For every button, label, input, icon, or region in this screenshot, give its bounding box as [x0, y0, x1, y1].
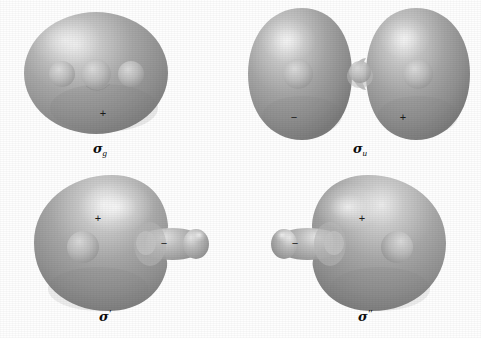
sign-plus: + [397, 112, 409, 123]
sigma-symbol: σ [99, 309, 109, 324]
nucleus-sphere [118, 61, 144, 87]
sigma-prime-mark: ′ [109, 307, 111, 319]
highlight [274, 228, 290, 242]
nucleus-sphere [403, 59, 433, 89]
highlight [191, 228, 207, 242]
panel-sigma-prime: + − σ′ [0, 169, 240, 338]
shade [330, 267, 430, 311]
panel-sigma-u: − + σu [240, 0, 481, 169]
orbital-figure: + σg [0, 0, 481, 338]
sigma-symbol: σ [353, 141, 363, 156]
highlight [29, 14, 101, 66]
sign-minus: − [289, 238, 301, 249]
sign-plus: + [92, 213, 104, 224]
sigma-subscript: g [103, 148, 108, 158]
highlight [379, 17, 431, 59]
nucleus-sphere [381, 231, 413, 263]
label-sigma-g: σg [70, 141, 130, 158]
sigma-subscript: u [363, 148, 368, 158]
sign-minus: − [288, 112, 300, 123]
sigma-double-prime-mark: ″ [368, 307, 373, 319]
nucleus-sphere [67, 231, 99, 263]
label-sigma-u: σu [330, 141, 390, 158]
sign-plus: + [97, 108, 109, 119]
highlight [314, 183, 382, 231]
shade [378, 96, 458, 136]
sigma-symbol: σ [358, 309, 368, 324]
notch-core [136, 231, 156, 255]
shade [48, 267, 148, 311]
sigma-symbol: σ [93, 141, 103, 156]
nucleus-sphere [283, 59, 313, 89]
nucleus-sphere [49, 61, 75, 87]
panel-sigma-double-prime: + − σ″ [240, 169, 481, 338]
sign-plus: + [356, 213, 368, 224]
sign-minus: − [158, 238, 170, 249]
label-sigma-double-prime: σ″ [332, 307, 398, 325]
nucleus-sphere [81, 59, 111, 89]
nucleus-sphere [349, 61, 371, 83]
highlight [78, 181, 154, 233]
panel-sigma-g: + σg [0, 0, 240, 169]
shade [262, 96, 342, 136]
label-sigma-prime: σ′ [75, 307, 135, 325]
highlight [260, 18, 316, 62]
notch-core [324, 231, 344, 255]
